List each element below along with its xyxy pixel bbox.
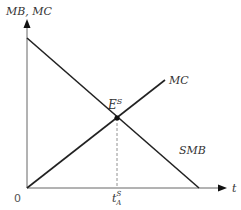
mb-mc-diagram: MB, MC MC SMB ES 0 tSA t (0, 0, 241, 210)
x-marker-label: tSA (112, 190, 121, 207)
x-axis-arrow-icon (218, 185, 227, 192)
y-axis-arrow-icon (24, 19, 31, 28)
origin-label: 0 (14, 192, 21, 205)
smb-curve (27, 38, 199, 188)
smb-label: SMB (179, 144, 206, 157)
y-axis-label: MB, MC (5, 5, 53, 18)
equilibrium-point (114, 115, 119, 120)
mc-label: MC (168, 74, 189, 87)
mc-curve (27, 80, 165, 188)
x-axis-label: t (232, 182, 237, 195)
equilibrium-label: ES (107, 97, 123, 112)
